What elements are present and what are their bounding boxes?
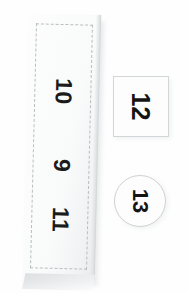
- strip-number-10: 10: [51, 55, 76, 128]
- square-label-number: 12: [129, 93, 154, 121]
- circle-label-number: 13: [129, 189, 151, 213]
- label-sheet-canvas: 10 9 11 12 13: [0, 0, 189, 293]
- strip-paper: 10 9 11: [23, 13, 101, 280]
- circle-label[interactable]: 13: [114, 175, 166, 227]
- strip-bottom-curl: [22, 273, 95, 291]
- square-label[interactable]: 12: [113, 76, 169, 137]
- vertical-label-strip[interactable]: 10 9 11: [23, 13, 101, 280]
- strip-number-11: 11: [48, 183, 73, 256]
